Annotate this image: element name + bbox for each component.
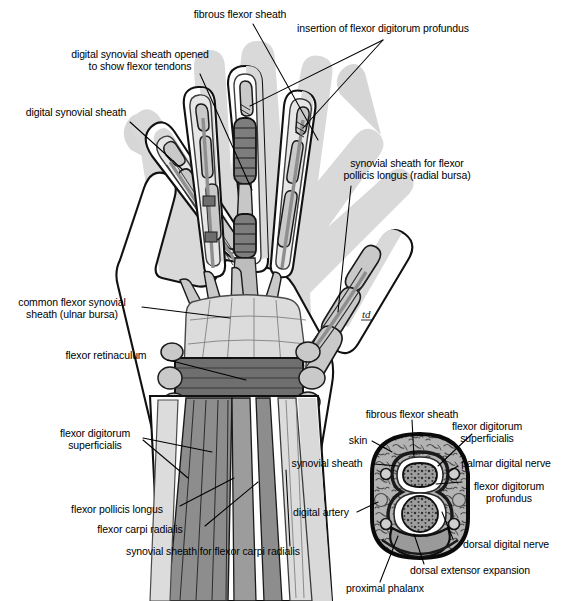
fdp-cross-section [402, 496, 438, 532]
digital-artery-left [375, 494, 388, 507]
artist-monogram: td [362, 308, 371, 320]
ring-fibrous-pulley-b [205, 232, 217, 242]
label-common-flexor-synovial-sheath-l1: common flexor synovial [6, 296, 138, 309]
label-flexor-digitorum-superficialis-cs-l1: flexor digitorum [430, 420, 544, 433]
flexor-retinaculum-band [175, 358, 303, 396]
label-synovial-sheath-for-flexor-carpi-radialis: synovial sheath for flexor carpi radiali… [96, 545, 330, 558]
label-flexor-retinaculum: flexor retinaculum [40, 349, 172, 362]
label-synovial-sheath-fpl-l1: synovial sheath for flexor [322, 157, 492, 170]
forearm-tendons [150, 396, 332, 601]
label-flexor-digitorum-profundus-cs-l1: flexor digitorum [452, 480, 566, 493]
palmar-digital-nerve-right [449, 469, 460, 480]
label-flexor-digitorum-superficialis-l1: flexor digitorum [30, 427, 160, 440]
label-fibrous-flexor-sheath: fibrous flexor sheath [180, 8, 300, 21]
label-digital-synovial-sheath-opened-l1: digital synovial sheath opened [35, 48, 245, 61]
label-flexor-pollicis-longus: flexor pollicis longus [48, 503, 186, 516]
label-palmar-digital-nerve: palmar digital nerve [447, 457, 565, 470]
label-digital-synovial-sheath: digital synovial sheath [6, 106, 146, 119]
label-flexor-digitorum-superficialis-l2: superficialis [30, 439, 160, 452]
label-flexor-carpi-radialis: flexor carpi radialis [78, 523, 202, 536]
dorsal-digital-nerve-left [381, 519, 392, 530]
label-fibrous-flexor-sheath-cs: fibrous flexor sheath [352, 408, 472, 421]
label-insertion-of-flexor-digitorum-profundus: insertion of flexor digitorum profundus [283, 22, 483, 35]
label-flexor-digitorum-profundus-cs-l2: profundus [452, 492, 566, 505]
label-dorsal-digital-nerve: dorsal digital nerve [448, 538, 564, 551]
fds-cross-section [403, 463, 437, 487]
label-skin: skin [336, 434, 380, 447]
palmar-digital-nerve-left [381, 469, 392, 480]
ring-fibrous-pulley-a [203, 196, 215, 206]
label-dorsal-extensor-expansion: dorsal extensor expansion [394, 564, 546, 577]
fibrous-flexor-sheath-middle-proximal [234, 214, 256, 258]
label-flexor-digitorum-superficialis-cs-l2: superficialis [430, 432, 544, 445]
label-digital-artery: digital artery [283, 506, 359, 519]
label-synovial-sheath-fpl-l2: pollicis longus (radial bursa) [322, 169, 492, 182]
middle-distal-phalanx [240, 81, 253, 116]
label-digital-synovial-sheath-opened-l2: to show flexor tendons [35, 60, 245, 73]
label-common-flexor-synovial-sheath-l2: sheath (ulnar bursa) [6, 308, 138, 321]
dorsal-digital-nerve-right [449, 519, 460, 530]
label-proximal-phalanx: proximal phalanx [331, 582, 439, 595]
label-synovial-sheath: synovial sheath [284, 457, 370, 470]
